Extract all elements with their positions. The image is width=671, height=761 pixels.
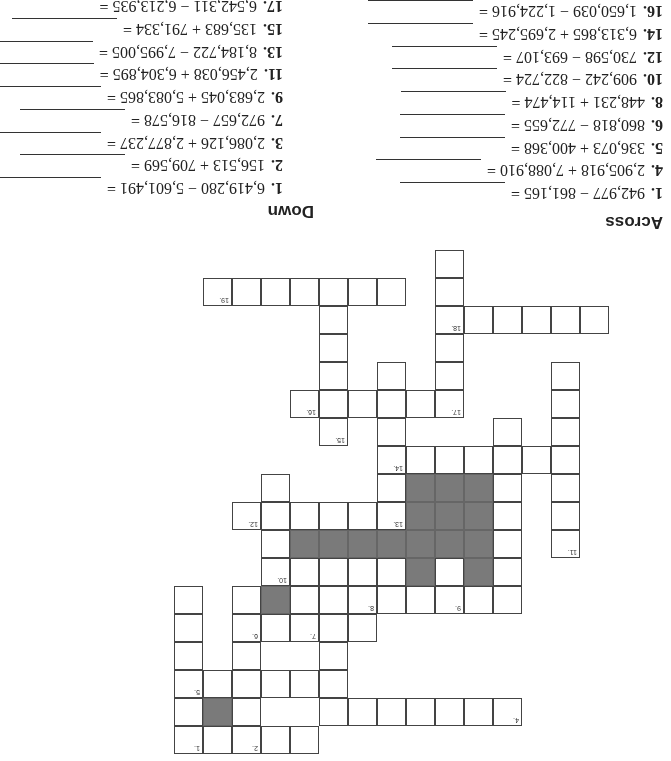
answer-cell[interactable]: 8. [348, 586, 377, 614]
answer-cell[interactable] [406, 586, 435, 614]
answer-cell[interactable] [522, 446, 551, 474]
answer-cell[interactable]: 17. [435, 390, 464, 418]
answer-blank[interactable] [0, 132, 101, 149]
answer-blank[interactable] [376, 159, 481, 176]
answer-cell[interactable] [551, 418, 580, 446]
answer-cell[interactable] [551, 306, 580, 334]
answer-cell[interactable] [319, 698, 348, 726]
answer-blank[interactable] [20, 109, 125, 126]
answer-cell[interactable] [551, 446, 580, 474]
answer-cell[interactable] [232, 698, 261, 726]
answer-cell[interactable] [319, 642, 348, 670]
answer-cell[interactable] [435, 362, 464, 390]
answer-blank[interactable] [400, 182, 505, 199]
answer-cell[interactable]: 16. [290, 390, 319, 418]
answer-cell[interactable]: 9. [435, 586, 464, 614]
answer-cell[interactable] [319, 362, 348, 390]
answer-cell[interactable] [493, 586, 522, 614]
answer-cell[interactable] [261, 670, 290, 698]
answer-cell[interactable] [377, 390, 406, 418]
answer-cell[interactable] [319, 334, 348, 362]
answer-cell[interactable] [174, 614, 203, 642]
answer-cell[interactable]: 19. [203, 278, 232, 306]
answer-blank[interactable] [20, 154, 125, 171]
answer-cell[interactable] [493, 418, 522, 446]
answer-cell[interactable]: 12. [232, 502, 261, 530]
answer-cell[interactable]: 18. [435, 306, 464, 334]
answer-cell[interactable] [203, 670, 232, 698]
answer-cell[interactable] [348, 278, 377, 306]
answer-cell[interactable] [261, 474, 290, 502]
answer-cell[interactable] [232, 278, 261, 306]
answer-cell[interactable]: 2. [232, 726, 261, 754]
answer-cell[interactable] [174, 586, 203, 614]
answer-cell[interactable] [261, 614, 290, 642]
answer-cell[interactable] [290, 502, 319, 530]
answer-cell[interactable] [290, 726, 319, 754]
answer-cell[interactable] [290, 558, 319, 586]
answer-cell[interactable] [232, 642, 261, 670]
answer-cell[interactable] [261, 502, 290, 530]
answer-cell[interactable]: 1. [174, 726, 203, 754]
answer-cell[interactable] [348, 614, 377, 642]
answer-cell[interactable] [261, 278, 290, 306]
answer-blank[interactable] [0, 177, 101, 194]
answer-cell[interactable] [435, 698, 464, 726]
answer-cell[interactable] [348, 502, 377, 530]
answer-cell[interactable] [290, 670, 319, 698]
answer-cell[interactable] [464, 698, 493, 726]
answer-cell[interactable]: 4. [493, 698, 522, 726]
answer-cell[interactable] [377, 418, 406, 446]
answer-cell[interactable]: 13. [377, 502, 406, 530]
answer-cell[interactable] [435, 446, 464, 474]
answer-cell[interactable] [551, 390, 580, 418]
answer-cell[interactable] [435, 278, 464, 306]
answer-cell[interactable] [464, 306, 493, 334]
answer-blank[interactable] [0, 64, 94, 81]
answer-cell[interactable] [551, 502, 580, 530]
answer-cell[interactable]: 5. [174, 670, 203, 698]
answer-blank[interactable] [392, 69, 497, 86]
answer-cell[interactable] [464, 586, 493, 614]
answer-blank[interactable] [12, 18, 117, 35]
answer-blank[interactable] [0, 0, 94, 12]
answer-cell[interactable]: 10. [261, 558, 290, 586]
answer-cell[interactable] [174, 642, 203, 670]
answer-cell[interactable] [377, 586, 406, 614]
answer-cell[interactable] [406, 446, 435, 474]
answer-cell[interactable] [377, 278, 406, 306]
answer-cell[interactable] [203, 726, 232, 754]
answer-cell[interactable]: 6. [232, 614, 261, 642]
answer-cell[interactable] [435, 558, 464, 586]
answer-cell[interactable] [174, 698, 203, 726]
answer-cell[interactable] [348, 698, 377, 726]
answer-cell[interactable] [319, 614, 348, 642]
answer-cell[interactable] [319, 670, 348, 698]
answer-cell[interactable] [319, 586, 348, 614]
answer-blank[interactable] [0, 86, 101, 103]
answer-cell[interactable] [232, 670, 261, 698]
answer-cell[interactable] [551, 474, 580, 502]
answer-cell[interactable] [493, 446, 522, 474]
answer-blank[interactable] [368, 23, 473, 40]
answer-cell[interactable] [261, 726, 290, 754]
answer-cell[interactable] [290, 586, 319, 614]
answer-cell[interactable] [464, 446, 493, 474]
answer-cell[interactable] [435, 334, 464, 362]
answer-cell[interactable] [522, 306, 551, 334]
answer-cell[interactable] [319, 278, 348, 306]
answer-cell[interactable] [493, 502, 522, 530]
answer-blank[interactable] [401, 91, 506, 108]
answer-blank[interactable] [392, 46, 497, 63]
answer-cell[interactable] [319, 390, 348, 418]
answer-cell[interactable] [406, 698, 435, 726]
answer-cell[interactable] [319, 502, 348, 530]
answer-cell[interactable] [435, 250, 464, 278]
answer-cell[interactable] [551, 362, 580, 390]
answer-cell[interactable] [377, 558, 406, 586]
answer-cell[interactable] [348, 390, 377, 418]
answer-blank[interactable] [400, 137, 505, 154]
answer-cell[interactable]: 7. [290, 614, 319, 642]
answer-cell[interactable] [580, 306, 609, 334]
answer-cell[interactable]: 14. [377, 446, 406, 474]
